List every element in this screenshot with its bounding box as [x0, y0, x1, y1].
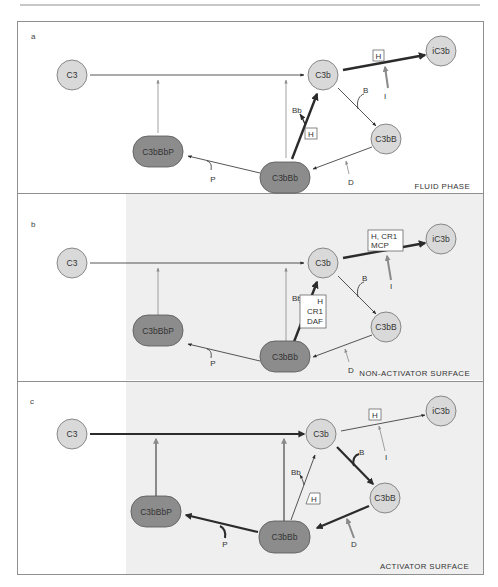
regulator-text: H [311, 495, 317, 504]
node-ic3b-label: iC3b [432, 406, 450, 416]
regulator-text: CR1 [307, 307, 324, 316]
label-b: B [362, 274, 367, 283]
regulator-text: H [372, 411, 378, 420]
node-c3b-label: C3b [313, 429, 329, 439]
label-bb: Bb [292, 106, 302, 115]
regulator-text: MCP [371, 241, 389, 250]
label-d: D [348, 178, 354, 187]
panel-letter: c [30, 397, 34, 406]
label-b: B [359, 448, 364, 457]
alternative-pathway-diagram: a I H B D Bb H P C3 C3b [0, 0, 498, 587]
label-p: P [210, 175, 215, 184]
node-ic3b-label: iC3b [432, 234, 450, 244]
node-c3bb-label: C3bB [375, 134, 397, 144]
node-c3bbb-label: C3bBb [272, 173, 298, 183]
regulator-text: H, CR1 [371, 232, 398, 241]
label-i: I [384, 92, 386, 101]
label-b: B [363, 86, 368, 95]
node-ic3b-label: iC3b [432, 46, 450, 56]
panel-caption: FLUID PHASE [414, 182, 470, 191]
node-c3bbb-label: C3bBb [272, 352, 298, 362]
label-p: P [210, 359, 215, 368]
label-i: I [385, 453, 387, 462]
regulator-text: H [376, 52, 382, 61]
node-c3bbbp-label: C3bBbP [142, 326, 174, 336]
node-c3bbbp-label: C3bBbP [140, 507, 172, 517]
label-d: D [351, 540, 357, 549]
panel-caption: NON-ACTIVATOR SURFACE [359, 369, 470, 378]
panel-caption: ACTIVATOR SURFACE [380, 562, 469, 571]
node-c3b-label: C3b [315, 258, 331, 268]
regulator-text: H [317, 297, 323, 306]
regulator-text: H [308, 130, 314, 139]
node-c3b-label: C3b [315, 70, 331, 80]
label-bb: Bb [291, 468, 301, 477]
node-c3-label: C3 [67, 70, 78, 80]
node-c3bb-label: C3bB [375, 322, 397, 332]
label-d: D [348, 366, 354, 375]
node-c3-label: C3 [67, 258, 78, 268]
panel-letter: a [31, 32, 36, 41]
node-c3-label: C3 [67, 429, 78, 439]
label-p: P [222, 540, 227, 549]
node-c3bbb-label: C3bBb [272, 532, 298, 542]
regulator-text: DAF [307, 317, 323, 326]
node-c3bb-label: C3bB [374, 493, 396, 503]
label-i: I [390, 282, 392, 291]
node-c3bbbp-label: C3bBbP [142, 147, 174, 157]
panel-letter: b [31, 220, 36, 229]
